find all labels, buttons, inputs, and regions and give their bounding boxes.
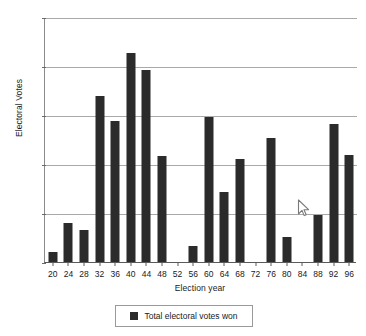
x-tick-mark — [224, 262, 225, 266]
x-tick-label: 60 — [204, 269, 213, 279]
x-tick-label: 48 — [157, 269, 166, 279]
x-tick-label: 40 — [126, 269, 135, 279]
bar-slot: 48 — [154, 17, 170, 262]
x-tick-mark — [99, 262, 100, 266]
x-tick-label: 24 — [64, 269, 73, 279]
bar — [313, 215, 322, 262]
x-axis-title: Election year — [44, 283, 356, 293]
x-tick-label: 92 — [329, 269, 338, 279]
bar — [282, 237, 291, 262]
x-tick-label: 44 — [142, 269, 151, 279]
legend-label: Total electoral votes won — [144, 311, 237, 321]
bar — [204, 117, 213, 262]
bar-slot: 76 — [263, 17, 279, 262]
bar-slot: 40 — [123, 17, 139, 262]
bar — [329, 124, 338, 262]
x-tick-mark — [302, 262, 303, 266]
x-tick-mark — [239, 262, 240, 266]
x-tick-label: 32 — [95, 269, 104, 279]
bar-slot: 88 — [310, 17, 326, 262]
y-axis-title: Electoral Votes — [14, 53, 24, 163]
x-tick-mark — [68, 262, 69, 266]
x-tick-label: 28 — [79, 269, 88, 279]
x-tick-mark — [286, 262, 287, 266]
x-tick-label: 52 — [173, 269, 182, 279]
bar-slot: 32 — [92, 17, 108, 262]
x-tick-mark — [271, 262, 272, 266]
x-tick-label: 88 — [313, 269, 322, 279]
bar-slot: 56 — [185, 17, 201, 262]
bar-slot: 28 — [76, 17, 92, 262]
bar-slot: 96 — [341, 17, 357, 262]
bar — [235, 159, 244, 262]
bar — [48, 252, 57, 262]
x-tick-mark — [208, 262, 209, 266]
x-tick-label: 56 — [188, 269, 197, 279]
y-tick-mark — [42, 263, 46, 264]
x-tick-label: 80 — [282, 269, 291, 279]
x-tick-label: 36 — [110, 269, 119, 279]
x-tick-mark — [161, 262, 162, 266]
x-tick-label: 20 — [48, 269, 57, 279]
bar — [345, 155, 354, 262]
x-tick-mark — [177, 262, 178, 266]
bar-slot: 20 — [45, 17, 61, 262]
x-tick-label: 96 — [344, 269, 353, 279]
x-tick-label: 64 — [220, 269, 229, 279]
bar-slot: 64 — [217, 17, 233, 262]
bar — [157, 156, 166, 262]
bar — [220, 192, 229, 262]
legend: Total electoral votes won — [115, 305, 253, 327]
x-tick-mark — [349, 262, 350, 266]
x-tick-label: 84 — [298, 269, 307, 279]
x-tick-label: 76 — [266, 269, 275, 279]
x-tick-label: 72 — [251, 269, 260, 279]
bar-chart: Electoral Votes 050100150200250 20242832… — [0, 0, 366, 336]
bar-slot: 84 — [295, 17, 311, 262]
x-tick-mark — [146, 262, 147, 266]
x-tick-mark — [333, 262, 334, 266]
bar — [95, 96, 104, 262]
bar — [126, 53, 135, 262]
bar — [189, 246, 198, 262]
x-tick-mark — [317, 262, 318, 266]
bar — [79, 230, 88, 262]
x-tick-mark — [193, 262, 194, 266]
bar-slot: 52 — [170, 17, 186, 262]
bar-slot: 24 — [61, 17, 77, 262]
x-tick-mark — [130, 262, 131, 266]
x-tick-mark — [83, 262, 84, 266]
bar — [111, 121, 120, 262]
bar-slot: 92 — [326, 17, 342, 262]
bar — [267, 138, 276, 262]
bar-slot: 36 — [107, 17, 123, 262]
legend-swatch-icon — [130, 312, 138, 320]
x-tick-mark — [52, 262, 53, 266]
bar — [64, 223, 73, 262]
plot-area: 050100150200250 202428323640444852566064… — [44, 18, 356, 263]
bar-slot: 72 — [248, 17, 264, 262]
bar-slot: 68 — [232, 17, 248, 262]
bar — [142, 70, 151, 262]
bar-slot: 80 — [279, 17, 295, 262]
x-tick-mark — [255, 262, 256, 266]
bar-slot: 44 — [139, 17, 155, 262]
bar-series: 2024283236404448525660646872768084889296 — [45, 17, 357, 262]
x-tick-label: 68 — [235, 269, 244, 279]
bar-slot: 60 — [201, 17, 217, 262]
x-tick-mark — [115, 262, 116, 266]
